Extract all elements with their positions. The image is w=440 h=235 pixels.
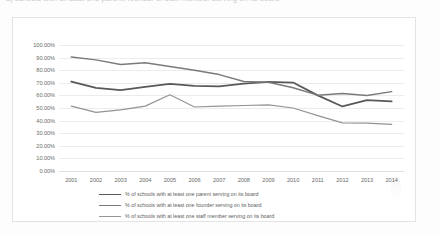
x-axis-tick-label: 2005 <box>164 177 176 183</box>
series-line-2 <box>71 95 391 125</box>
legend-line-icon <box>99 205 121 206</box>
y-axis-tick-label: 100.00% <box>33 42 55 48</box>
series-lines <box>59 45 404 171</box>
x-axis: 2001200220032004200520062007200820092010… <box>59 173 404 187</box>
cropped-title-strip: a) schools with at least one parent, fou… <box>6 0 426 9</box>
y-axis-tick-label: 80.00% <box>36 67 55 73</box>
chart-screenshot: a) schools with at least one parent, fou… <box>0 0 440 235</box>
x-axis-tick-label: 2013 <box>361 177 373 183</box>
legend-line-icon <box>99 194 121 195</box>
x-axis-tick-label: 2008 <box>238 177 250 183</box>
y-axis-tick-label: 40.00% <box>36 118 55 124</box>
gridline <box>59 171 404 172</box>
legend-line-icon <box>99 216 121 217</box>
y-axis-tick-label: 30.00% <box>36 130 55 136</box>
y-axis: 100.00%90.00%80.00%70.00%60.00%50.00%40.… <box>13 35 59 181</box>
y-axis-tick-label: 90.00% <box>36 55 55 61</box>
x-axis-tick-label: 2006 <box>188 177 200 183</box>
legend-item[interactable]: % of schools with at least one founder s… <box>99 199 399 210</box>
chart-container: 100.00%90.00%80.00%70.00%60.00%50.00%40.… <box>12 17 416 222</box>
scan-artifact <box>391 177 401 203</box>
legend-item[interactable]: % of schools with at least one staff mem… <box>99 210 399 221</box>
y-axis-tick-label: 20.00% <box>36 143 55 149</box>
x-axis-tick-label: 2002 <box>90 177 102 183</box>
page-title: a) schools with at least one parent, fou… <box>6 0 280 3</box>
y-axis-tick-label: 70.00% <box>36 80 55 86</box>
x-axis-tick-label: 2012 <box>336 177 348 183</box>
y-axis-tick-label: 10.00% <box>36 155 55 161</box>
x-axis-tick-label: 2004 <box>139 177 151 183</box>
plot-area <box>59 45 404 171</box>
x-axis-tick-label: 2011 <box>312 177 324 183</box>
x-axis-tick-label: 2009 <box>262 177 274 183</box>
legend-label: % of schools with at least one staff mem… <box>125 211 274 222</box>
x-axis-tick-label: 2001 <box>65 177 77 183</box>
x-axis-tick-label: 2010 <box>287 177 299 183</box>
y-axis-tick-label: 0.00% <box>39 168 55 174</box>
x-axis-tick-label: 2007 <box>213 177 225 183</box>
x-axis-tick-label: 2003 <box>114 177 126 183</box>
y-axis-tick-label: 50.00% <box>36 105 55 111</box>
chart-legend: % of schools with at least one parent se… <box>99 188 399 221</box>
legend-item[interactable]: % of schools with at least one parent se… <box>99 188 399 199</box>
y-axis-tick-label: 60.00% <box>36 92 55 98</box>
